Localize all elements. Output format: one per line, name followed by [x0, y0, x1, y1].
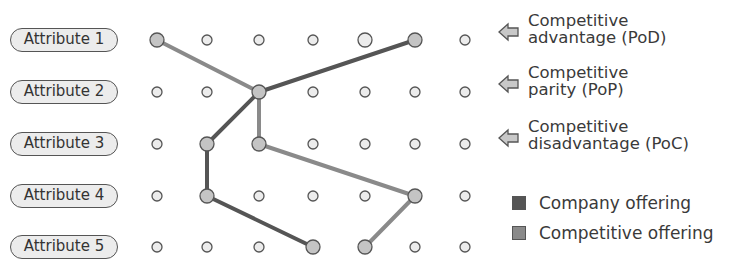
- data-point: [200, 189, 214, 203]
- legend-pod-line2: advantage (PoD): [528, 29, 666, 46]
- legend-pop-line1: Competitive: [528, 64, 628, 81]
- legend-poc-line1: Competitive: [528, 118, 689, 135]
- legend-poc-line2: disadvantage (PoC): [528, 135, 689, 152]
- data-point: [252, 85, 266, 99]
- grid-dot: [358, 33, 372, 47]
- grid-dot: [460, 35, 470, 45]
- legend-pop: Competitive parity (PoP): [498, 64, 628, 98]
- grid-dot: [410, 139, 420, 149]
- grid-dot: [360, 191, 370, 201]
- legend-company-offering: Company offering: [512, 193, 691, 213]
- legend-pop-line2: parity (PoP): [528, 81, 628, 98]
- grid-dot: [254, 242, 264, 252]
- grid-dot: [460, 191, 470, 201]
- grid-dot: [254, 191, 264, 201]
- company-label: Company offering: [539, 193, 691, 213]
- company-swatch: [512, 196, 526, 210]
- grid-dot: [308, 139, 318, 149]
- grid-dot: [360, 87, 370, 97]
- grid-dot: [360, 139, 370, 149]
- grid-dot: [254, 35, 264, 45]
- grid-dot: [460, 242, 470, 252]
- grid-dot: [202, 242, 212, 252]
- data-point: [408, 189, 422, 203]
- grid-dot: [152, 191, 162, 201]
- grid-dot: [460, 139, 470, 149]
- grid-dot: [152, 139, 162, 149]
- grid-dot: [152, 242, 162, 252]
- data-point: [408, 33, 422, 47]
- grid-dot: [308, 87, 318, 97]
- data-point: [150, 33, 164, 47]
- grid-dot: [202, 87, 212, 97]
- competitive-swatch: [512, 226, 526, 240]
- competitive-offering-line: [157, 40, 415, 247]
- legend-poc: Competitive disadvantage (PoC): [498, 118, 689, 152]
- data-point: [200, 137, 214, 151]
- grid-dot: [410, 87, 420, 97]
- legend-competitive-offering: Competitive offering: [512, 223, 714, 243]
- legend-pod: Competitive advantage (PoD): [498, 12, 666, 46]
- competitive-label: Competitive offering: [539, 223, 714, 243]
- grid-dot: [202, 35, 212, 45]
- arrow-left-icon: [498, 22, 520, 42]
- data-point: [306, 240, 320, 254]
- arrow-left-icon: [498, 74, 520, 94]
- data-point: [252, 137, 266, 151]
- grid-dot: [308, 35, 318, 45]
- data-point: [358, 240, 372, 254]
- grid-dot: [410, 242, 420, 252]
- arrow-left-icon: [498, 128, 520, 148]
- legend-pod-line1: Competitive: [528, 12, 666, 29]
- grid-dot: [460, 87, 470, 97]
- grid-dot: [152, 87, 162, 97]
- grid-dot: [308, 191, 318, 201]
